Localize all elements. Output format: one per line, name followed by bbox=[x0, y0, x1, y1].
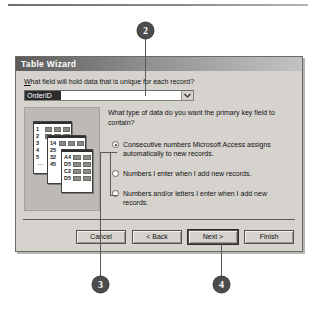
callout-3-leader-vertical bbox=[100, 152, 101, 276]
top-divider bbox=[8, 4, 308, 6]
card-row-key: D5 bbox=[64, 161, 71, 168]
card-row: 14 bbox=[50, 140, 84, 147]
callout-3-bracket-foot bbox=[110, 195, 117, 196]
card-row-key: 5 bbox=[36, 154, 45, 161]
card-row: D5 bbox=[64, 161, 91, 168]
card-row-key: 25 bbox=[50, 147, 59, 154]
primary-key-question: What type of data do you want the primar… bbox=[108, 108, 295, 128]
card-header-bar bbox=[48, 136, 85, 138]
card-row-key: 45 bbox=[50, 161, 59, 168]
card-row-bar bbox=[73, 162, 81, 167]
callout-4-marker: 4 bbox=[213, 276, 230, 293]
unique-field-prompt-accel: W bbox=[24, 78, 31, 85]
callout-3-bracket-side bbox=[110, 152, 111, 196]
card-row: A4 bbox=[64, 154, 91, 161]
unique-field-combobox-value[interactable]: OrderID bbox=[25, 91, 61, 100]
card-row-bar bbox=[77, 141, 84, 146]
card-row-bar bbox=[73, 155, 81, 160]
callout-2-marker: 2 bbox=[137, 22, 154, 39]
card-row: D5 bbox=[64, 175, 91, 182]
card-row-key: 4 bbox=[36, 147, 45, 154]
record-cards-illustration: 1 2 3 4 bbox=[24, 107, 100, 211]
dialog-button-bar: Cancel < Back Next > Finish bbox=[76, 230, 294, 244]
table-wizard-dialog: Table Wizard What field will hold data t… bbox=[15, 56, 303, 252]
callout-4-label: 4 bbox=[219, 279, 224, 290]
footer-divider bbox=[23, 219, 295, 220]
dialog-title: Table Wizard bbox=[21, 59, 76, 69]
card-row-bar bbox=[83, 155, 91, 160]
card-row-key: 2 bbox=[36, 133, 43, 140]
primary-key-radio-group: Consecutive numbers Microsoft Access ass… bbox=[112, 140, 295, 207]
callout-4-leader bbox=[221, 244, 222, 276]
card-row-key: 3 bbox=[36, 140, 45, 147]
illustration-card-3: A4 D5 C2 D5 bbox=[61, 149, 93, 193]
chevron-down-icon[interactable] bbox=[181, 91, 193, 100]
back-button[interactable]: < Back bbox=[132, 230, 182, 244]
cancel-button[interactable]: Cancel bbox=[76, 230, 126, 244]
dialog-right-pane: What type of data do you want the primar… bbox=[100, 107, 295, 218]
card-row-bar bbox=[83, 162, 91, 167]
unique-field-combobox-filler[interactable] bbox=[61, 91, 181, 100]
card-row-key: 32 bbox=[50, 154, 59, 161]
radio-indicator-selected[interactable] bbox=[112, 141, 119, 148]
card-row-key: 1 bbox=[36, 126, 43, 133]
callout-3-label: 3 bbox=[98, 279, 103, 290]
callout-2-leader bbox=[145, 38, 146, 96]
card-row-bar bbox=[45, 127, 52, 132]
dialog-titlebar[interactable]: Table Wizard bbox=[16, 57, 302, 71]
callout-3-marker: 3 bbox=[92, 276, 109, 293]
radio-option-numbers-and-letters[interactable]: Numbers and/or letters I enter when I ad… bbox=[112, 189, 295, 207]
card-header-bar bbox=[62, 150, 92, 152]
card-row-bar bbox=[83, 176, 91, 181]
radio-option-numbers-i-enter[interactable]: Numbers I enter when I add new records. bbox=[112, 169, 295, 178]
card-row-bar bbox=[54, 127, 61, 132]
callout-3-bracket-top bbox=[110, 152, 117, 153]
card-row-bar bbox=[59, 141, 66, 146]
finish-button[interactable]: Finish bbox=[244, 230, 294, 244]
dialog-content: 1 2 3 4 bbox=[23, 107, 295, 218]
card-row-key: D5 bbox=[64, 175, 71, 182]
card-row-bar bbox=[63, 127, 70, 132]
card-row-key: C2 bbox=[64, 168, 71, 175]
radio-indicator[interactable] bbox=[112, 170, 119, 177]
card-header-bar bbox=[34, 122, 71, 124]
card-row-bar bbox=[73, 176, 81, 181]
card-row: C2 bbox=[64, 168, 91, 175]
dialog-body: What field will hold data that is unique… bbox=[16, 71, 302, 251]
unique-field-prompt-text: hat field will hold data that is unique … bbox=[31, 78, 194, 85]
radio-option-consecutive-numbers[interactable]: Consecutive numbers Microsoft Access ass… bbox=[112, 140, 295, 158]
radio-option-label: Consecutive numbers Microsoft Access ass… bbox=[123, 140, 291, 158]
card-row-bar bbox=[73, 169, 81, 174]
card-row-bar bbox=[83, 169, 91, 174]
vertical-ellipsis-icon: ⋮ bbox=[38, 162, 43, 167]
radio-option-label: Numbers I enter when I add new records. bbox=[123, 169, 251, 178]
card-row-bar bbox=[68, 141, 75, 146]
next-button[interactable]: Next > bbox=[188, 230, 238, 244]
callout-2-label: 2 bbox=[143, 25, 148, 36]
radio-option-label: Numbers and/or letters I enter when I ad… bbox=[123, 189, 291, 207]
card-row: 1 bbox=[36, 126, 70, 133]
unique-field-combobox[interactable]: OrderID bbox=[24, 90, 194, 101]
callout-3-bracket-stem bbox=[100, 152, 110, 153]
card-row-key: A4 bbox=[64, 154, 71, 161]
unique-field-prompt: What field will hold data that is unique… bbox=[24, 77, 295, 87]
card-row-key: 14 bbox=[50, 140, 57, 147]
